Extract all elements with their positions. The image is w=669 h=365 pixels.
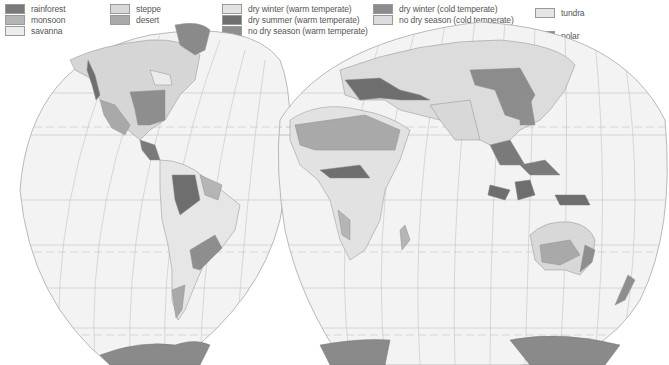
world-climate-map [0,0,669,365]
antarctica-east [320,340,390,365]
